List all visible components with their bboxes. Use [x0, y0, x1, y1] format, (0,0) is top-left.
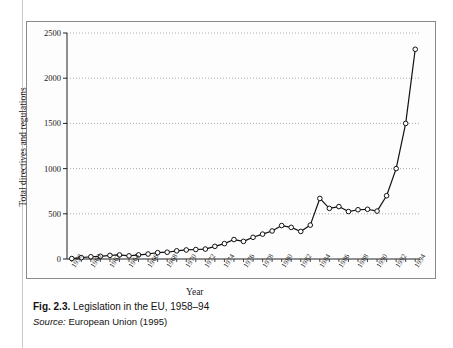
y-tick-label: 2500 [31, 28, 61, 38]
data-point-marker [279, 223, 284, 228]
y-axis-title: Total directives and regulations [18, 62, 28, 232]
data-point-marker [184, 248, 189, 253]
y-tick-label: 2000 [31, 73, 61, 83]
data-point-marker [365, 207, 370, 212]
data-point-marker [308, 223, 313, 228]
data-series-line [72, 49, 415, 258]
data-point-marker [327, 206, 332, 211]
figure-number-label: Fig. 2.3. [33, 301, 70, 312]
figure-caption-block: Fig. 2.3. Legislation in the EU, 1958–94… [33, 299, 433, 329]
data-point-marker [222, 241, 227, 246]
data-point-marker [356, 207, 361, 212]
y-tick-label: 500 [31, 209, 61, 219]
data-point-marker [241, 239, 246, 244]
data-point-marker [394, 166, 399, 171]
data-point-marker [346, 209, 351, 214]
data-point-marker [174, 249, 179, 254]
data-point-marker [318, 196, 323, 201]
figure-source: Source: European Union (1995) [33, 314, 433, 329]
figure-caption: Fig. 2.3. Legislation in the EU, 1958–94 [33, 299, 433, 314]
chart-area: Total directives and regulations Year 05… [0, 0, 453, 348]
data-point-marker [298, 229, 303, 234]
data-point-marker [413, 47, 418, 52]
data-point-marker [337, 204, 342, 209]
data-point-marker [165, 250, 170, 255]
y-tick-label: 1500 [31, 118, 61, 128]
data-point-marker [260, 232, 265, 237]
x-axis-title: Year [186, 287, 204, 297]
data-point-marker [375, 209, 380, 214]
source-label: Source: [33, 316, 66, 327]
data-point-marker [251, 235, 256, 240]
line-chart-svg [0, 0, 453, 348]
y-tick-label: 0 [31, 254, 61, 264]
data-point-marker [194, 247, 199, 252]
data-point-marker [213, 244, 218, 249]
data-point-marker [289, 225, 294, 230]
data-point-marker [403, 121, 408, 126]
data-point-marker [232, 237, 237, 242]
y-tick-label: 1000 [31, 164, 61, 174]
figure-caption-text: Legislation in the EU, 1958–94 [70, 301, 209, 312]
source-text: European Union (1995) [66, 316, 167, 327]
data-point-marker [203, 247, 208, 252]
data-point-marker [270, 229, 275, 234]
data-point-marker [146, 252, 151, 257]
data-point-marker [384, 193, 389, 198]
